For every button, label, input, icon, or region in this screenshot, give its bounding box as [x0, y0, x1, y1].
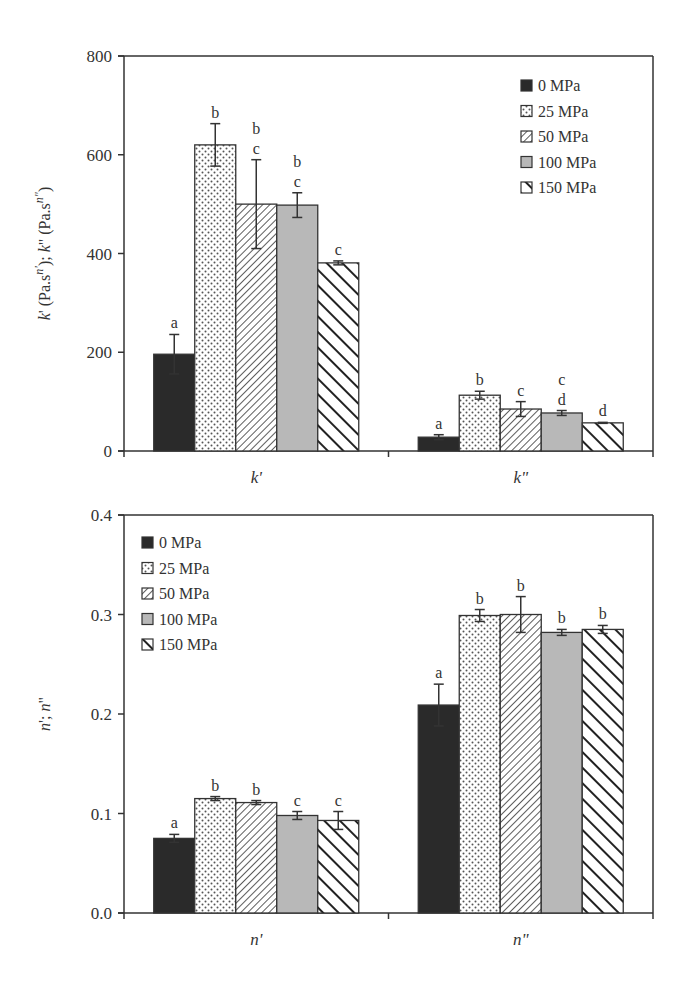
significance-letter: d [558, 391, 566, 408]
bar [582, 629, 623, 913]
legend-swatch [521, 157, 532, 168]
legend-swatch [142, 614, 153, 625]
category-label: k" [513, 468, 529, 487]
significance-letter: a [435, 415, 442, 432]
bar [236, 803, 277, 913]
significance-letter: d [599, 402, 607, 419]
significance-letter: b [293, 153, 301, 170]
bar [541, 632, 582, 913]
legend-label: 0 MPa [538, 77, 580, 94]
y-tick-label: 200 [87, 343, 113, 362]
legend-swatch [142, 639, 153, 650]
bar [418, 705, 459, 913]
significance-letter: b [211, 777, 219, 794]
legend-label: 0 MPa [159, 534, 201, 551]
significance-letter: b [558, 609, 566, 626]
legend-label: 150 MPa [159, 636, 217, 653]
significance-letter: c [294, 173, 301, 190]
bar [459, 395, 500, 451]
legend-swatch [521, 182, 532, 193]
legend-label: 100 MPa [538, 154, 596, 171]
category-label: n' [250, 930, 263, 949]
bar [500, 615, 541, 914]
significance-letter: b [211, 104, 219, 121]
bar [154, 838, 195, 913]
significance-letter: a [435, 664, 442, 681]
figure: 0200400600800k' (Pa.sn'); k" (Pa.sn")abc… [0, 0, 689, 996]
significance-letter: c [517, 382, 524, 399]
significance-letter: c [294, 792, 301, 809]
category-label: k' [251, 468, 263, 487]
category-label: n" [513, 930, 530, 949]
legend-label: 100 MPa [159, 611, 217, 628]
bar [195, 145, 236, 451]
bar [318, 820, 359, 913]
significance-letter: c [558, 371, 565, 388]
significance-letter: c [335, 241, 342, 258]
y-tick-label: 0.2 [91, 705, 112, 724]
bar [195, 799, 236, 913]
y-axis-label: n'; n" [36, 697, 53, 731]
significance-letter: b [476, 590, 484, 607]
legend-label: 25 MPa [159, 560, 209, 577]
bar [318, 263, 359, 451]
legend-label: 50 MPa [159, 585, 209, 602]
significance-letter: b [517, 577, 525, 594]
significance-letter: c [335, 792, 342, 809]
bar [582, 423, 623, 451]
legend-swatch [521, 80, 532, 91]
legend-label: 25 MPa [538, 103, 588, 120]
legend-label: 50 MPa [538, 128, 588, 145]
legend-swatch [521, 131, 532, 142]
k-chart: 0200400600800k' (Pa.sn'); k" (Pa.sn")abc… [32, 47, 653, 487]
y-tick-label: 0.3 [91, 606, 112, 625]
y-tick-label: 400 [87, 245, 113, 264]
y-tick-label: 800 [87, 47, 113, 66]
y-tick-label: 0.4 [91, 506, 113, 525]
y-axis-label: k' (Pa.sn'); k" (Pa.sn") [32, 187, 54, 320]
significance-letter: b [599, 605, 607, 622]
legend-swatch [142, 537, 153, 548]
y-tick-label: 0.1 [91, 805, 112, 824]
bar [277, 815, 318, 913]
y-tick-label: 600 [87, 146, 113, 165]
legend-swatch [142, 588, 153, 599]
bar [541, 413, 582, 451]
legend-label: 150 MPa [538, 179, 596, 196]
significance-letter: a [171, 314, 178, 331]
legend-swatch [142, 563, 153, 574]
significance-letter: b [252, 120, 260, 137]
legend-swatch [521, 106, 532, 117]
significance-letter: b [252, 781, 260, 798]
bar [277, 205, 318, 451]
y-tick-label: 0.0 [91, 904, 112, 923]
significance-letter: a [171, 814, 178, 831]
y-tick-label: 0 [104, 442, 113, 461]
n-chart: 0.00.10.20.30.4n'; n"abbccn'abbbbn"0 MPa… [36, 506, 653, 949]
legend: 0 MPa25 MPa50 MPa100 MPa150 MPa [142, 534, 217, 653]
significance-letter: b [476, 371, 484, 388]
legend: 0 MPa25 MPa50 MPa100 MPa150 MPa [521, 77, 596, 196]
bar [459, 615, 500, 913]
significance-letter: c [253, 140, 260, 157]
